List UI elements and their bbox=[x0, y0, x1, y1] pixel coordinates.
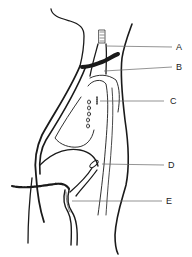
label-d: D bbox=[168, 160, 175, 170]
neck-back bbox=[115, 24, 132, 254]
catheter bbox=[12, 184, 69, 189]
trachea-tube bbox=[88, 80, 108, 215]
esophagus bbox=[106, 88, 113, 215]
diaphragm bbox=[40, 149, 98, 166]
head-outline bbox=[51, 9, 84, 66]
label-c: C bbox=[170, 96, 177, 106]
band-b bbox=[82, 54, 118, 67]
vertebrae-beads bbox=[87, 100, 91, 128]
neck-front-inner bbox=[40, 66, 86, 174]
label-e: E bbox=[166, 196, 172, 206]
label-a: A bbox=[176, 42, 182, 52]
element-d bbox=[89, 159, 99, 169]
anatomy-diagram: A B C D E bbox=[0, 0, 192, 257]
label-b: B bbox=[176, 62, 182, 72]
neck-front-outer bbox=[35, 66, 80, 222]
